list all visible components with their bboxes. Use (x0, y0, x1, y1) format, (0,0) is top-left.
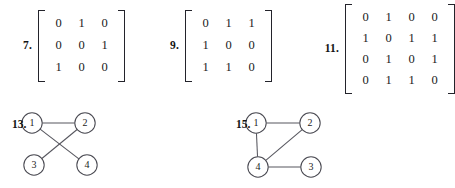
graph-node-label: 4 (256, 161, 261, 172)
exercise-7: 7. 010001100 (8, 10, 125, 82)
exercise-13: 13. 1234 (12, 110, 122, 184)
matrix-row: 010 (47, 13, 116, 35)
matrix-cell: 1 (194, 57, 217, 79)
matrix-7: 010001100 (38, 10, 125, 82)
graph-node-label: 2 (308, 117, 313, 128)
matrix-row: 011 (194, 13, 263, 35)
matrix-row: 0100 (354, 7, 446, 28)
exercise-11: 11. 0100101101010110 (313, 4, 455, 94)
matrix-row: 0101 (354, 49, 446, 70)
matrix-cell: 1 (377, 49, 400, 70)
matrix-cell: 0 (240, 57, 263, 79)
matrix-cell: 1 (377, 70, 400, 91)
matrix-cell: 1 (93, 35, 116, 57)
graph-node-label: 4 (85, 159, 90, 170)
matrix-cell: 0 (93, 57, 116, 79)
matrix-cell: 1 (423, 28, 446, 49)
matrix-cell: 0 (93, 13, 116, 35)
matrix-cell: 1 (400, 70, 423, 91)
graph-node-label: 1 (30, 117, 35, 128)
matrix-cell: 0 (194, 13, 217, 35)
matrix-cell: 1 (70, 13, 93, 35)
graph-node-label: 3 (32, 159, 37, 170)
matrix-cell: 0 (400, 49, 423, 70)
exercise-number-11: 11. (313, 43, 339, 55)
matrix-cell: 1 (194, 35, 217, 57)
matrix-cell: 1 (217, 57, 240, 79)
exercise-number-15: 15. (236, 119, 250, 131)
matrix-cell: 0 (423, 7, 446, 28)
matrix-cell: 0 (354, 7, 377, 28)
graph-node-label: 2 (83, 117, 88, 128)
matrix-cell: 0 (217, 35, 240, 57)
matrix-cell: 1 (354, 28, 377, 49)
matrix-cell: 0 (423, 70, 446, 91)
matrix-row: 0110 (354, 70, 446, 91)
graph-node: 4 (248, 157, 268, 177)
matrix-row: 100 (47, 57, 116, 79)
matrix-9: 011100110 (185, 10, 272, 82)
matrix-cell: 0 (47, 13, 70, 35)
matrix-cell: 0 (70, 35, 93, 57)
graph-node-label: 3 (309, 161, 314, 172)
graph-edge (42, 129, 77, 158)
graph-node: 2 (75, 113, 95, 133)
exercise-9: 9. 011100110 (155, 10, 272, 82)
graph-edge (266, 130, 302, 161)
matrix-cell: 1 (377, 7, 400, 28)
matrix-row: 1011 (354, 28, 446, 49)
graph-figure-15: 1243 (236, 110, 348, 188)
matrix-cell: 0 (70, 57, 93, 79)
matrix-cell: 1 (240, 13, 263, 35)
graph-node-label: 1 (254, 117, 259, 128)
matrix-row: 001 (47, 35, 116, 57)
matrix-cell: 1 (400, 28, 423, 49)
matrix-row: 100 (194, 35, 263, 57)
matrix-cell: 0 (354, 49, 377, 70)
matrix-cell: 1 (47, 57, 70, 79)
matrix-cell: 0 (354, 70, 377, 91)
exercise-number-13: 13. (12, 119, 26, 131)
matrix-cell: 0 (400, 7, 423, 28)
exercise-number-7: 7. (8, 40, 32, 52)
graph-node: 3 (301, 157, 321, 177)
matrix-cell: 0 (47, 35, 70, 57)
matrix-cell: 1 (217, 13, 240, 35)
graph-node: 2 (300, 113, 320, 133)
graph-node: 4 (77, 155, 97, 175)
graph-figure-13: 1234 (12, 110, 122, 184)
graph-node: 3 (24, 155, 44, 175)
matrix-row: 110 (194, 57, 263, 79)
matrix-cell: 1 (423, 49, 446, 70)
matrix-cell: 0 (240, 35, 263, 57)
graph-edge (256, 133, 257, 157)
matrix-11: 0100101101010110 (345, 4, 455, 94)
exercise-number-9: 9. (155, 40, 179, 52)
exercise-15: 15. 1243 (236, 110, 348, 188)
matrix-cell: 0 (377, 28, 400, 49)
